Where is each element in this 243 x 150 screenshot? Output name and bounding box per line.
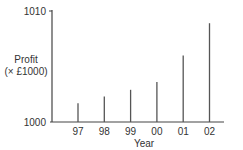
x-tick-label-97: 97 [72, 126, 84, 137]
x-tick-label-01: 01 [178, 126, 190, 137]
y-tick-label-top: 1010 [24, 6, 47, 17]
x-tick-label-00: 00 [151, 126, 163, 137]
y-axis-title: Profit [14, 54, 38, 65]
x-tick-label-98: 98 [99, 126, 111, 137]
x-tick-label-02: 02 [204, 126, 216, 137]
x-tick-labels: 979899000102 [72, 126, 215, 137]
y-axis-subtitle: (× £1000) [4, 66, 47, 77]
axes: 1010 1000 Profit (× £1000) Year [4, 6, 224, 150]
y-tick-label-bottom: 1000 [24, 117, 47, 128]
x-tick-label-99: 99 [125, 126, 137, 137]
bars [78, 23, 210, 122]
x-axis-title: Year [134, 138, 155, 149]
profit-chart: 1010 1000 Profit (× £1000) Year 97989900… [0, 0, 243, 150]
